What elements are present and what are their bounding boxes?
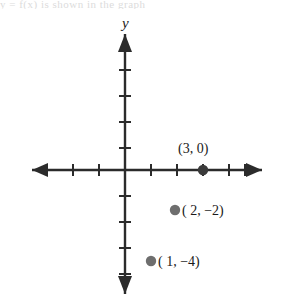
y-axis-label: y (122, 16, 129, 31)
x-axis (32, 163, 262, 177)
data-point-1-minus4 (146, 256, 156, 266)
x-axis-left-arrowhead (32, 163, 48, 177)
y-axis-down-arrowhead (118, 276, 132, 294)
y-axis (118, 34, 132, 294)
point-label-1-minus4: ( 1, −4) (158, 255, 200, 269)
graph-canvas (0, 0, 286, 304)
x-axis-right-arrowhead (246, 163, 262, 177)
data-point-2-minus2 (170, 205, 180, 215)
data-point-3-0 (198, 165, 208, 175)
point-label-2-minus2: ( 2, −2) (182, 204, 224, 218)
y-axis-up-arrowhead (118, 34, 132, 52)
coordinate-plane-figure: y = f(x) is shown in the graph (0, 0, 286, 304)
point-label-3-0: (3, 0) (178, 142, 208, 156)
